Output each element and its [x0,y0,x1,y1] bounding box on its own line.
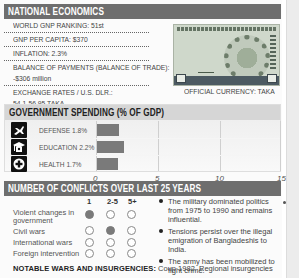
conflict-label-violent-changes: Violent changes in government [13,209,74,225]
gnp-per-capita: GNP PER CAPITA: $370 [4,33,149,47]
government-spending-panel: GOVERNMENT SPENDING (% OF GDP) DEFENSE 1… [4,104,281,172]
label-line: government [13,217,74,225]
health-bar [97,158,118,170]
conflict-label-international-wars: International wars [13,239,72,247]
column-header-1: 1 [87,197,91,206]
indicator-violent-2-5 [106,210,115,219]
country-fact-page: NATIONAL ECONOMICS WORLD GNP RANKING: 51… [0,0,282,278]
notable-wars-label: NOTABLE WARS AND INSURGENCIES: [13,264,156,273]
conflict-label-civil-wars: Civil wars [13,228,45,236]
banknote-seal [224,35,270,81]
spending-label: EDUCATION 2.2% [39,143,102,152]
indicator-foreign-2-5 [106,249,115,258]
column-header-2-5: 2-5 [107,197,118,206]
label-line: International wars [13,239,72,247]
defense-bar [97,124,119,136]
label-line: Civil wars [13,228,45,236]
indicator-foreign-5-plus [127,249,136,258]
row-separator [93,138,280,139]
national-economics-title: NATIONAL ECONOMICS [8,4,104,19]
spending-row-health: HEALTH 1.7% [9,156,95,173]
conflicts-title: NUMBER OF CONFLICTS OVER LAST 25 YEARS [8,181,201,196]
banknote-corner-numeral [176,74,186,83]
grid-line-10 [220,121,221,171]
page-marker-dot [283,201,286,204]
indicator-foreign-1 [85,249,94,258]
econ-text: GNP PER CAPITA: $370 [13,35,88,44]
econ-text: BALANCE OF PAYMENTS (BALANCE OF TRADE): [13,63,169,72]
medical-cross-icon [11,156,27,172]
econ-text: INFLATION: 2.3% [13,49,67,58]
balance-of-payments-value: -$306 million [4,72,149,86]
indicator-violent-5-plus [127,210,136,219]
note-bullet: Tensions persist over the illegal emigra… [158,227,282,254]
exchange-rates-label: EXCHANGE RATES / U.S. DLR.: [4,86,149,97]
indicator-international-1 [85,238,94,247]
currency-caption-text: OFFICIAL CURRENCY: TAKA [184,87,275,96]
spending-label: HEALTH 1.7% [39,160,87,169]
balance-of-payments-label: BALANCE OF PAYMENTS (BALANCE OF TRADE): [4,61,149,72]
graduation-cap-icon [11,139,27,155]
page-edge-scrollbar[interactable] [286,0,299,278]
spending-label-text: EDUCATION 2.2% [39,143,94,152]
currency-caption: OFFICIAL CURRENCY: TAKA [184,87,285,96]
world-gnp-ranking: WORLD GNP RANKING: 51st [4,19,149,33]
banknote-script [177,27,277,31]
conflicts-header: NUMBER OF CONFLICTS OVER LAST 25 YEARS [4,181,281,196]
national-economics-header: NATIONAL ECONOMICS [4,4,281,19]
spending-row-education: EDUCATION 2.2% [9,139,95,156]
indicator-civil-1 [85,226,94,235]
column-header-5-plus: 5+ [128,197,137,206]
government-spending-title: GOVERNMENT SPENDING (% OF GDP) [9,105,164,120]
indicator-civil-2-5 [106,226,115,235]
economics-list: WORLD GNP RANKING: 51st GNP PER CAPITA: … [4,19,149,110]
banknote-signature [198,67,214,73]
banknote-bottom-band [174,76,280,85]
indicator-civil-5-plus [127,226,136,235]
spending-label-text: HEALTH 1.7% [39,160,81,169]
grid-line-5 [158,121,159,171]
spending-label-text: DEFENSE 1.8% [39,126,87,135]
note-bullet: The military dominated politics from 197… [158,197,282,224]
spending-row-defense: DEFENSE 1.8% [9,122,95,139]
education-bar [97,141,124,153]
inflation: INFLATION: 2.3% [4,47,149,61]
indicator-international-2-5 [106,238,115,247]
conflict-label-foreign-intervention: Foreign intervention [13,250,79,258]
notable-wars-text: Coup 1982. Regional insurgencies [156,264,273,273]
fighter-jet-icon [11,122,27,138]
label-line: Foreign intervention [13,250,79,258]
econ-text: -$306 million [13,74,51,83]
notable-wars: NOTABLE WARS AND INSURGENCIES: Coup 1982… [13,264,273,273]
indicator-violent-1 [85,210,94,219]
banknote-corner-numeral [267,74,277,83]
banknote-side-text [270,33,276,69]
taka-banknote-image [173,24,280,86]
spending-label: DEFENSE 1.8% [39,126,94,135]
row-separator [93,155,280,156]
government-spending-header: GOVERNMENT SPENDING (% OF GDP) [5,105,280,120]
indicator-international-5-plus [127,238,136,247]
econ-text: WORLD GNP RANKING: 51st [13,21,104,30]
econ-text: EXCHANGE RATES / U.S. DLR.: [13,88,113,97]
grid-line-15 [280,121,281,171]
